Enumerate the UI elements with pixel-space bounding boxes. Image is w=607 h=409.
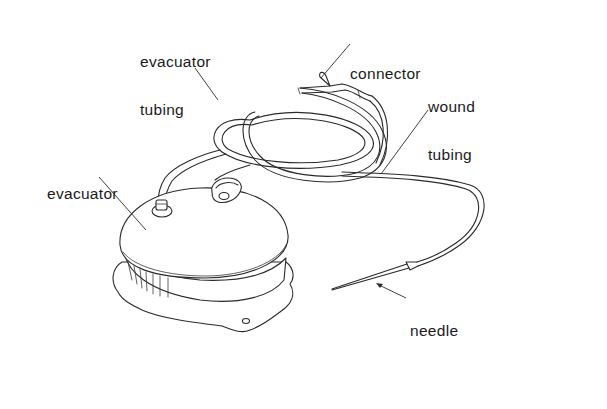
leader-wound-tubing: [381, 110, 428, 174]
needle-arrowhead: [376, 283, 383, 288]
label-evacuator-line1: evacuator: [47, 186, 118, 202]
label-wound-tubing-line2: tubing: [428, 147, 475, 163]
label-evacuator-tubing-line1: evacuator: [140, 54, 211, 70]
needle-shape: [332, 264, 409, 290]
label-evacuator-tubing: evacuator tubing: [140, 22, 211, 150]
label-evacuator: evacuator: [47, 154, 118, 234]
evacuator-body: [113, 178, 293, 332]
label-connector-line1: connector: [350, 66, 421, 82]
label-wound-tubing: wound tubing: [428, 67, 475, 195]
diagram-canvas: evacuator tubing connector wound tubing …: [0, 0, 607, 409]
leader-needle: [379, 285, 406, 298]
label-evacuator-tubing-line2: tubing: [140, 102, 211, 118]
label-wound-tubing-line1: wound: [428, 99, 475, 115]
leader-connector: [321, 44, 350, 78]
label-needle: needle: [410, 291, 458, 371]
label-connector: connector: [350, 34, 421, 114]
label-needle-line1: needle: [410, 323, 458, 339]
